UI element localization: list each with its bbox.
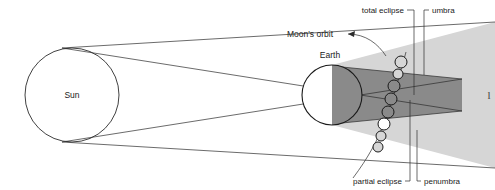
partial-eclipse-label: partial eclipse [353,177,402,186]
moon-position-3 [388,80,400,92]
umbra-label: umbra [432,6,455,15]
moon-position-5 [382,106,394,118]
right-edge-fragment: l [487,89,490,101]
moon-position-8 [373,142,383,152]
penumbra-label: penumbra [424,177,461,186]
moon-position-4 [385,93,397,105]
moon-position-7 [376,131,386,141]
moon-position-1 [395,56,407,68]
earth-body-group [302,65,362,125]
sun-label: Sun [64,90,79,100]
moon-position-6 [378,118,390,130]
eclipse-diagram: Sun Earth [0,0,495,190]
moons-orbit-arrowhead [348,31,355,37]
moon-position-2 [393,69,403,79]
earth-label: Earth [320,50,341,60]
total-eclipse-label: total eclipse [362,6,405,15]
earth-day-side [302,65,332,125]
eclipse-svg-canvas: Sun Earth [0,0,495,190]
moons-orbit-label: Moon's orbit [287,29,334,39]
